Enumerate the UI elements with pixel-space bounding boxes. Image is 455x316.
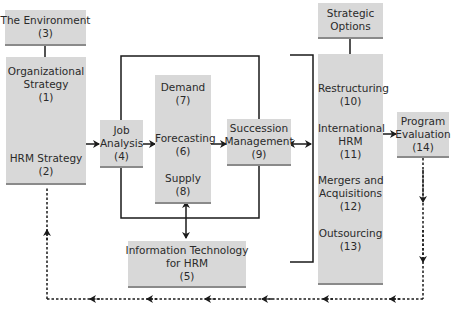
international-num: (11) (318, 148, 383, 161)
forecasting-num: (6) (155, 145, 211, 158)
environment-num: (3) (38, 27, 53, 40)
org-strategy-label-1: Organizational (6, 65, 86, 78)
strategic-options-box: Strategic Options (318, 3, 383, 39)
mergers-label-2: Acquisitions (318, 187, 383, 200)
org-hrm-strategy-box: Organizational Strategy (1) HRM Strategy… (6, 57, 86, 185)
job-analysis-label-1: Job (113, 124, 129, 137)
demand-label: Demand (155, 81, 211, 94)
org-strategy-num: (1) (6, 91, 86, 104)
strategic-options-label-1: Strategic (327, 7, 374, 20)
job-analysis-num: (4) (114, 150, 129, 163)
strategic-options-label-2: Options (330, 20, 371, 33)
restructuring-num: (10) (318, 95, 383, 108)
international-label-1: International (318, 122, 383, 135)
environment-label: The Environment (1, 14, 91, 27)
job-analysis-box: Job Analysis (4) (100, 120, 143, 168)
outsourcing-num: (13) (318, 240, 383, 253)
forecasting-box: Demand (7) Forecasting (6) Supply (8) (155, 75, 211, 204)
org-strategy-label-2: Strategy (6, 78, 86, 91)
hrm-strategy-label: HRM Strategy (6, 152, 86, 165)
mergers-label-1: Mergers and (318, 174, 383, 187)
info-tech-box: Information Technology for HRM (5) (128, 241, 246, 288)
succession-num: (9) (252, 148, 267, 161)
job-analysis-label-2: Analysis (100, 137, 143, 150)
succession-label-1: Succession (230, 122, 288, 135)
international-label-2: HRM (318, 135, 383, 148)
forecasting-label: Forecasting (155, 132, 211, 145)
supply-label: Supply (155, 172, 211, 185)
mergers-num: (12) (318, 200, 383, 213)
environment-box: The Environment (3) (5, 10, 86, 46)
supply-num: (8) (155, 185, 211, 198)
info-tech-num: (5) (180, 270, 195, 283)
restructuring-label: Restructuring (318, 82, 383, 95)
options-stack-box: Restructuring (10) International HRM (11… (318, 54, 383, 285)
info-tech-label-1: Information Technology (126, 244, 249, 257)
program-eval-label-2: Evaluation (395, 128, 450, 141)
outsourcing-label: Outsourcing (318, 227, 383, 240)
program-eval-label-1: Program (401, 115, 445, 128)
program-eval-num: (14) (412, 141, 434, 154)
hrm-strategy-num: (2) (6, 165, 86, 178)
succession-box: Succession Management (9) (227, 119, 291, 166)
info-tech-label-2: for HRM (166, 257, 208, 270)
succession-label-2: Management (224, 135, 293, 148)
program-eval-box: Program Evaluation (14) (397, 112, 449, 158)
demand-num: (7) (155, 94, 211, 107)
